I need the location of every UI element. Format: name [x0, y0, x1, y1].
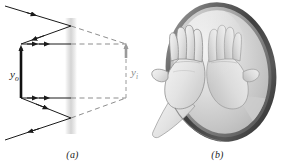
panel-b-mirror-photo: (b)	[145, 0, 290, 168]
reflected-ray-upper	[21, 26, 71, 44]
panel-a-ray-diagram: yo yi (a)	[0, 0, 145, 168]
incident-ray-upper-left	[5, 6, 71, 26]
panel-b-caption: (b)	[145, 149, 290, 160]
mirror-photo-svg	[145, 0, 290, 148]
dashed-virtual-ray-lower	[71, 98, 126, 118]
figure-root: yo yi (a)	[0, 0, 290, 168]
outgoing-ray-lower-left-arrow	[30, 128, 40, 131]
image-height-label: yi	[130, 66, 138, 81]
reflected-ray-upper-arrow	[34, 36, 44, 40]
ray-diagram-svg: yo yi	[0, 0, 145, 148]
panel-a-caption: (a)	[0, 149, 145, 160]
incident-ray-upper-left-arrow	[26, 12, 34, 14]
object-height-label: yo	[9, 68, 19, 83]
dashed-virtual-ray-upper	[71, 26, 126, 44]
reflected-ray-lower-arrow	[36, 104, 46, 108]
real-thumb	[152, 69, 168, 82]
